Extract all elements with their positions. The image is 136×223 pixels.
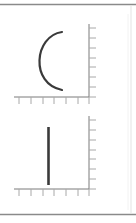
bottom-y-axis [89,116,96,189]
diagram-card [0,0,136,223]
bottom-x-axis [14,189,89,196]
top-y-axis [89,24,96,97]
diagram-canvas [0,0,136,223]
top-diagram [14,24,96,104]
arc-shape [39,32,62,90]
top-x-axis [14,97,89,104]
bottom-diagram [14,116,96,196]
